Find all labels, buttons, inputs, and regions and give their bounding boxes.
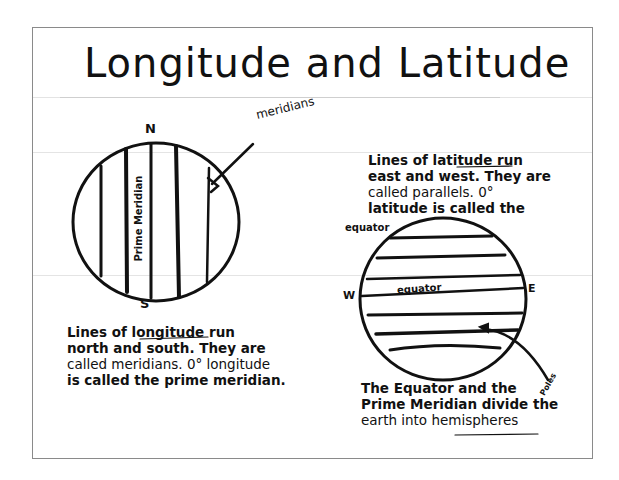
south-label: S xyxy=(140,296,149,311)
note-line: east and west. They are xyxy=(368,168,551,184)
right-globe-icon xyxy=(360,218,548,380)
prime-meridian-label: Prime Meridian xyxy=(133,176,144,262)
note-line: earth into hemispheres xyxy=(361,412,558,428)
left-globe-icon xyxy=(73,143,253,301)
west-label: W xyxy=(343,289,355,302)
note-line: Lines of latitude run xyxy=(368,152,551,168)
note-line: called parallels. 0° xyxy=(368,184,551,200)
north-label: N xyxy=(145,121,156,136)
latitude-note: Lines of latitude run east and west. The… xyxy=(368,152,551,216)
hemisphere-note: The Equator and the Prime Meridian divid… xyxy=(361,380,558,428)
east-label: E xyxy=(528,282,536,295)
equator-outer-label: equator xyxy=(345,222,389,233)
note-line: Prime Meridian divide the xyxy=(361,396,558,412)
note-line: called meridians. 0° longitude xyxy=(67,356,286,372)
note-line: The Equator and the xyxy=(361,380,558,396)
note-line: latitude is called the xyxy=(368,200,551,216)
longitude-note: Lines of longitude run north and south. … xyxy=(67,324,286,388)
note-line: north and south. They are xyxy=(67,340,286,356)
note-line: is called the prime meridian. xyxy=(67,372,286,388)
note-line: Lines of longitude run xyxy=(67,324,286,340)
